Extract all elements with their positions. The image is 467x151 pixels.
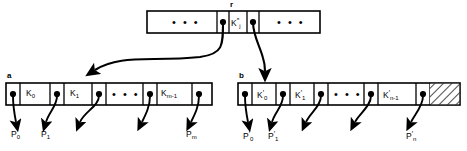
root-key-subscript: j — [239, 23, 240, 29]
node-a-key-1: K1 — [70, 89, 79, 99]
ptr-subscript: 0 — [17, 134, 20, 140]
key-subscript: m-1 — [167, 93, 177, 99]
root-key-Kj: K″j — [231, 17, 241, 29]
node-a-key-0: K0 — [26, 89, 35, 99]
node-a-label: a — [7, 72, 11, 80]
node-b-ellipsis: • • • — [334, 89, 362, 100]
node-a-pointer-label-m: Pm — [186, 130, 197, 140]
ptr-subscript: m — [192, 134, 197, 140]
key-subscript: 0 — [32, 93, 35, 99]
node-b-label: b — [239, 72, 244, 80]
root-left-ellipsis: • • • — [172, 17, 200, 28]
key-subscript: n-1 — [390, 95, 399, 101]
ptr-subscript: 1 — [275, 136, 278, 142]
ptr-subscript: 0 — [250, 136, 253, 142]
node-a-pointer-label-0: P0 — [11, 130, 20, 140]
ptr-subscript: n — [413, 136, 416, 142]
key-subscript: 1 — [302, 95, 305, 101]
key-subscript: 0 — [264, 95, 267, 101]
node-a-pointer-label-1: P1 — [41, 130, 50, 140]
unused-space-hatch — [430, 84, 459, 104]
root-node-label: r — [230, 1, 233, 9]
left-node-a — [6, 83, 212, 105]
node-b-pointer-label-1: P′1 — [268, 130, 278, 142]
node-a-key-m-1: Km-1 — [161, 89, 177, 99]
root-right-ellipsis: • • • — [277, 17, 305, 28]
node-b-pointer-label-n: P′n — [406, 130, 416, 142]
node-b-pointer-label-0: P′0 — [243, 130, 253, 142]
ptr-subscript: 1 — [47, 134, 50, 140]
key-subscript: 1 — [76, 93, 79, 99]
node-b-key-1: K′1 — [295, 89, 305, 101]
node-b-key-n-1: K′n-1 — [383, 89, 399, 101]
node-a-ellipsis: • • • — [112, 89, 140, 100]
node-b-key-0: K′0 — [257, 89, 267, 101]
